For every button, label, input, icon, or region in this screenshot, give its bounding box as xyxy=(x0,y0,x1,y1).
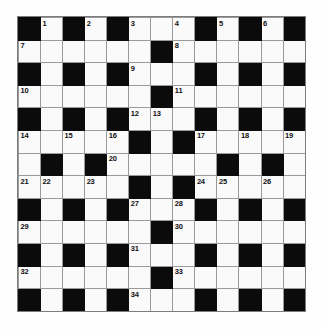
letter-cell[interactable]: 11 xyxy=(173,85,195,108)
letter-cell[interactable]: 1 xyxy=(41,18,63,41)
letter-cell[interactable] xyxy=(283,266,305,289)
letter-cell[interactable]: 34 xyxy=(129,289,151,312)
letter-cell[interactable] xyxy=(195,266,217,289)
letter-cell[interactable] xyxy=(41,130,63,153)
letter-cell[interactable] xyxy=(63,153,85,176)
letter-cell[interactable]: 8 xyxy=(173,40,195,63)
letter-cell[interactable]: 27 xyxy=(129,198,151,221)
letter-cell[interactable]: 19 xyxy=(283,130,305,153)
crossword-grid[interactable]: 1234567891011121314151617181920212223242… xyxy=(18,17,306,312)
letter-cell[interactable] xyxy=(239,266,261,289)
letter-cell[interactable]: 6 xyxy=(261,18,283,41)
letter-cell[interactable]: 26 xyxy=(261,176,283,199)
letter-cell[interactable] xyxy=(129,221,151,244)
letter-cell[interactable] xyxy=(41,243,63,266)
letter-cell[interactable] xyxy=(261,130,283,153)
letter-cell[interactable] xyxy=(85,198,107,221)
letter-cell[interactable] xyxy=(195,85,217,108)
letter-cell[interactable] xyxy=(261,243,283,266)
letter-cell[interactable] xyxy=(85,85,107,108)
letter-cell[interactable] xyxy=(195,40,217,63)
letter-cell[interactable] xyxy=(85,108,107,131)
letter-cell[interactable]: 9 xyxy=(129,63,151,86)
letter-cell[interactable] xyxy=(41,108,63,131)
letter-cell[interactable] xyxy=(41,266,63,289)
letter-cell[interactable] xyxy=(239,221,261,244)
letter-cell[interactable] xyxy=(107,266,129,289)
letter-cell[interactable] xyxy=(41,221,63,244)
letter-cell[interactable] xyxy=(41,289,63,312)
letter-cell[interactable]: 18 xyxy=(239,130,261,153)
letter-cell[interactable] xyxy=(151,176,173,199)
letter-cell[interactable] xyxy=(239,176,261,199)
letter-cell[interactable]: 28 xyxy=(173,198,195,221)
letter-cell[interactable]: 7 xyxy=(19,40,41,63)
letter-cell[interactable] xyxy=(261,221,283,244)
letter-cell[interactable] xyxy=(129,40,151,63)
letter-cell[interactable] xyxy=(41,63,63,86)
letter-cell[interactable]: 2 xyxy=(85,18,107,41)
letter-cell[interactable] xyxy=(63,85,85,108)
letter-cell[interactable]: 25 xyxy=(217,176,239,199)
letter-cell[interactable] xyxy=(85,130,107,153)
letter-cell[interactable] xyxy=(107,221,129,244)
letter-cell[interactable] xyxy=(283,153,305,176)
letter-cell[interactable] xyxy=(239,85,261,108)
letter-cell[interactable]: 12 xyxy=(129,108,151,131)
letter-cell[interactable] xyxy=(217,40,239,63)
letter-cell[interactable] xyxy=(261,266,283,289)
letter-cell[interactable] xyxy=(41,85,63,108)
letter-cell[interactable] xyxy=(41,40,63,63)
letter-cell[interactable]: 3 xyxy=(129,18,151,41)
letter-cell[interactable]: 13 xyxy=(151,108,173,131)
letter-cell[interactable]: 23 xyxy=(85,176,107,199)
letter-cell[interactable] xyxy=(217,198,239,221)
letter-cell[interactable] xyxy=(239,153,261,176)
letter-cell[interactable] xyxy=(239,40,261,63)
letter-cell[interactable] xyxy=(217,63,239,86)
letter-cell[interactable] xyxy=(261,198,283,221)
letter-cell[interactable]: 32 xyxy=(19,266,41,289)
letter-cell[interactable] xyxy=(151,243,173,266)
letter-cell[interactable]: 31 xyxy=(129,243,151,266)
letter-cell[interactable] xyxy=(261,85,283,108)
letter-cell[interactable] xyxy=(63,221,85,244)
letter-cell[interactable] xyxy=(85,243,107,266)
letter-cell[interactable] xyxy=(63,266,85,289)
letter-cell[interactable] xyxy=(261,108,283,131)
letter-cell[interactable] xyxy=(261,40,283,63)
letter-cell[interactable] xyxy=(129,85,151,108)
letter-cell[interactable] xyxy=(173,108,195,131)
letter-cell[interactable] xyxy=(217,221,239,244)
letter-cell[interactable] xyxy=(261,289,283,312)
letter-cell[interactable]: 29 xyxy=(19,221,41,244)
letter-cell[interactable] xyxy=(151,18,173,41)
letter-cell[interactable] xyxy=(85,266,107,289)
letter-cell[interactable]: 20 xyxy=(107,153,129,176)
letter-cell[interactable] xyxy=(283,221,305,244)
letter-cell[interactable] xyxy=(107,85,129,108)
letter-cell[interactable] xyxy=(217,243,239,266)
letter-cell[interactable] xyxy=(129,266,151,289)
letter-cell[interactable] xyxy=(151,63,173,86)
letter-cell[interactable] xyxy=(63,176,85,199)
letter-cell[interactable] xyxy=(85,289,107,312)
letter-cell[interactable] xyxy=(151,130,173,153)
letter-cell[interactable]: 17 xyxy=(195,130,217,153)
letter-cell[interactable]: 30 xyxy=(173,221,195,244)
letter-cell[interactable]: 24 xyxy=(195,176,217,199)
letter-cell[interactable] xyxy=(173,153,195,176)
letter-cell[interactable] xyxy=(151,289,173,312)
letter-cell[interactable]: 22 xyxy=(41,176,63,199)
letter-cell[interactable] xyxy=(283,85,305,108)
letter-cell[interactable]: 16 xyxy=(107,130,129,153)
letter-cell[interactable] xyxy=(283,40,305,63)
letter-cell[interactable] xyxy=(107,176,129,199)
letter-cell[interactable] xyxy=(85,221,107,244)
letter-cell[interactable] xyxy=(261,63,283,86)
letter-cell[interactable] xyxy=(217,85,239,108)
letter-cell[interactable] xyxy=(217,130,239,153)
letter-cell[interactable] xyxy=(151,153,173,176)
letter-cell[interactable] xyxy=(107,40,129,63)
letter-cell[interactable]: 15 xyxy=(63,130,85,153)
